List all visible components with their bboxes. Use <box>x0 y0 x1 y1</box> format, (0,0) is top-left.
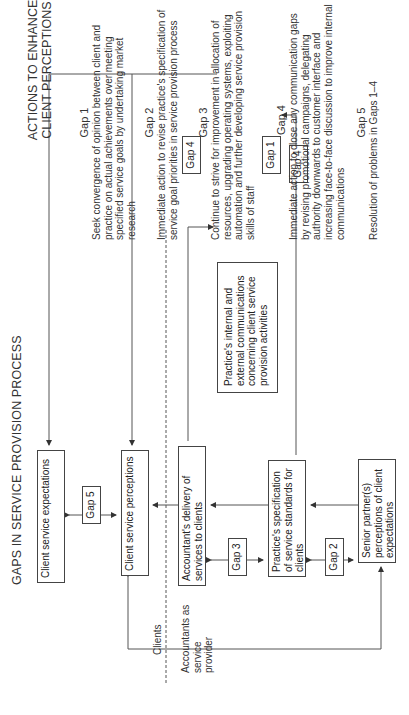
gap4-lower-label: Gap 4 <box>289 145 308 183</box>
communications-box: Practice's internal and external communi… <box>217 262 278 393</box>
gap5-label: Gap 5 <box>82 486 101 524</box>
right-title: ACTIONS TO ENHANCE CLIENT PERCEPTIONS <box>26 0 54 150</box>
clients-label: Clients <box>152 624 164 655</box>
accountant-delivery-box: Accountant's delivery of services to cli… <box>178 446 206 586</box>
gap3-label: Gap 3 <box>228 538 247 576</box>
gaps-diagram: GAPS IN SERVICE PROVISION PROCESS ACTION… <box>0 0 409 715</box>
client-perceptions-box: Client service perceptions <box>121 450 149 576</box>
practice-specification-box: Practice's specification of service stan… <box>268 460 306 577</box>
senior-partner-box: Senior partner(s) perceptions of client … <box>358 459 396 563</box>
gap2-label: Gap 2 <box>325 538 344 576</box>
gap4-upper-label: Gap 4 <box>182 136 201 174</box>
left-title: GAPS IN SERVICE PROVISION PROCESS <box>10 335 24 585</box>
accountants-label: Accountants as service provider <box>180 603 215 673</box>
gap1-label: Gap 1 <box>262 136 281 174</box>
client-expectations-box: Client service expectations <box>37 450 65 583</box>
